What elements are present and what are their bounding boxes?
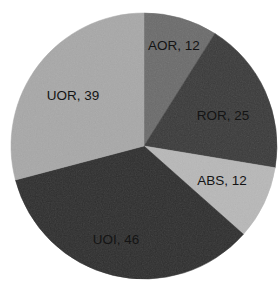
pie-slice-label-ror: ROR, 25 [197, 108, 250, 123]
pie-slice-label-uor: UOR, 39 [47, 88, 100, 103]
pie-slice-label-abs: ABS, 12 [197, 173, 247, 188]
chart-texture-overlay [11, 13, 277, 279]
pie-slice-label-uoi: UOI, 46 [93, 232, 140, 247]
pie-chart-canvas: AOR, 12ROR, 25ABS, 12UOI, 46UOR, 39 [0, 0, 279, 289]
pie-chart: AOR, 12ROR, 25ABS, 12UOI, 46UOR, 39 [0, 0, 279, 289]
pie-slice-label-aor: AOR, 12 [148, 38, 200, 53]
